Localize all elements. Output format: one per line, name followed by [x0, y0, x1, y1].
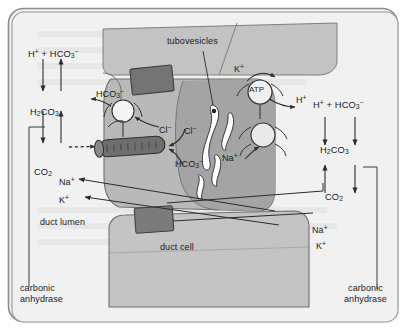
right-reaction-top: H+ + HCO3− — [313, 99, 364, 111]
apical-channel-protein-upper — [130, 65, 174, 95]
right-h-ion: H+ — [313, 100, 324, 110]
left-h-ion: H+ — [28, 49, 39, 59]
label-duct-cell: duct cell — [160, 243, 194, 252]
basolateral-channel-protein — [134, 206, 174, 234]
label-na-cell: Na+ — [222, 152, 238, 163]
label-hco3-apical: HCO3− — [96, 88, 124, 99]
label-cl-outer: Cl− — [184, 125, 197, 136]
left-hco3-ion: HCO3− — [50, 49, 79, 59]
label-na-lumen: Na+ — [59, 176, 75, 187]
label-carbonic-anhydrase-right: carbonic anhydrase — [344, 283, 387, 304]
label-k-pump: K+ — [234, 63, 244, 74]
label-duct-lumen: duct lumen — [40, 218, 85, 227]
left-reaction-middle: H2CO3 — [30, 108, 59, 118]
left-reaction-top: H+ + HCO3− — [28, 48, 79, 60]
label-tubovesicles: tubovesicles — [167, 37, 218, 46]
label-k-lumen: K+ — [59, 194, 69, 205]
right-reaction-middle: H2CO3 — [320, 146, 349, 156]
figure-canvas: tubovesicles H+ + HCO3− H2CO3 CO2 H+ + H… — [0, 0, 410, 334]
label-carbonic-anhydrase-left: carbonic anhydrase — [20, 283, 63, 304]
label-hco3-channel: HCO3− — [175, 158, 203, 169]
left-reaction-bottom: CO2 — [34, 168, 52, 178]
label-atp: ATP — [249, 86, 264, 94]
right-hco3-ion: HCO3− — [335, 100, 364, 110]
label-na-right: Na+ — [312, 224, 328, 235]
label-k-right: K+ — [316, 240, 326, 251]
label-cl-inner: Cl− — [159, 124, 172, 135]
right-reaction-bottom: CO2 — [325, 193, 343, 203]
upper-tissue-band — [103, 23, 337, 75]
label-h-secreted: H+ — [296, 94, 307, 105]
